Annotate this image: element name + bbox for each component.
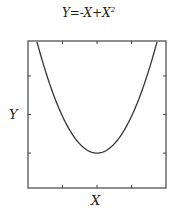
plot-area: [0, 0, 177, 219]
axis-ticks: [28, 41, 166, 188]
parabola-curve: [37, 42, 157, 153]
plot-frame: [28, 41, 166, 188]
x-axis-label: X: [91, 193, 100, 208]
y-axis-label: Y: [9, 107, 18, 122]
